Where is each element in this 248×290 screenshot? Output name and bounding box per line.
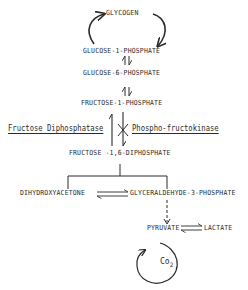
node-dihydroxyacetone: DIHYDROXYACETONE	[20, 190, 85, 197]
node-fructose-1-phosphate: FRUCTOSE-1-PHOSPHATE	[81, 100, 162, 107]
node-glycogen: GLYCOGEN	[106, 10, 139, 17]
node-glyceraldehyde-3-phosphate: GLYCERALDEHYDE-3-PHOSPHATE	[130, 190, 236, 197]
node-pyruvate: PYRUVATE	[147, 225, 180, 232]
enzyme-phosphofructokinase: Phospho-fructokinase	[132, 125, 219, 133]
glycogen-cycle-arrows	[89, 14, 165, 46]
enzyme-regulated-arrows	[112, 112, 128, 146]
co2-main: Co	[160, 257, 170, 266]
enzyme-fructose-diphosphatase: Fructose Diphosphatase	[8, 125, 103, 133]
split-bracket	[68, 164, 167, 189]
co2-subscript: 2	[170, 261, 174, 268]
equilibrium-arrow-g1p-g6p	[125, 56, 129, 65]
pathway-arrows	[0, 0, 248, 290]
equilibrium-arrow-pyruvate-lactate	[181, 226, 202, 230]
node-glucose-6-phosphate: GLUCOSE-6-PHOSPHATE	[83, 70, 160, 77]
dashed-arrow-ga3p-pyruvate	[164, 200, 170, 224]
equilibrium-arrow-dhap-ga3p	[97, 192, 128, 196]
node-fructose-1-6-diphosphate: FRUCTOSE -1,6-DIPHOSPHATE	[69, 150, 171, 157]
node-glucose-1-phosphate: GLUCOSE-1-PHOSPHATE	[83, 48, 160, 55]
node-lactate: LACTATE	[204, 225, 232, 232]
equilibrium-arrow-g6p-f1p	[125, 87, 129, 96]
node-co2: Co2	[160, 258, 173, 268]
